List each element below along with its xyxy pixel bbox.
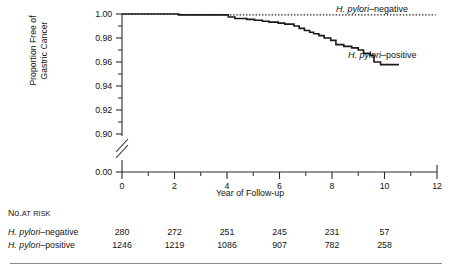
bottom-divider [10,263,442,264]
axis-lines [122,14,437,172]
curve-label-hp-negative: H. pylori–negative [336,4,408,14]
curve-label-hp-negative-species: H. pylori [336,4,369,14]
risk-table-title-main: No. [8,208,22,218]
risk-cell-neg-y10: 57 [365,227,405,237]
y-tick-label-0-96: 0.96 [84,57,112,67]
kaplan-meier-figure: Proportion Free of Gastric Cancer 1.00 0… [0,0,452,278]
risk-cell-neg-y2: 272 [155,227,195,237]
curve-label-hp-positive-species: H. pylori [348,50,381,60]
risk-cell-pos-y8: 782 [312,240,352,250]
risk-cell-neg-y6: 245 [260,227,300,237]
curve-label-hp-positive-suffix: –positive [381,50,417,60]
risk-cell-neg-y0: 280 [102,227,142,237]
x-major-ticks [122,172,437,179]
y-tick-label-0-90: 0.90 [84,129,112,139]
risk-row-hp-positive-label: H. pylori–positive [8,240,75,250]
risk-cell-pos-y2: 1219 [155,240,195,250]
x-axis-title: Year of Follow-up [180,188,320,198]
y-axis-title-line2: Gastric Cancer [38,0,49,127]
y-minor-ticks [118,26,122,122]
x-tick-label-8: 8 [322,181,342,191]
y-axis-title: Proportion Free of Gastric Cancer [28,0,49,127]
y-tick-label-0-92: 0.92 [84,105,112,115]
x-tick-label-12: 12 [427,181,447,191]
y-tick-label-0-98: 0.98 [84,33,112,43]
risk-table-title: No.AT RISK [8,208,51,218]
y-axis-title-line1: Proportion Free of [28,15,38,85]
risk-cell-neg-y8: 231 [312,227,352,237]
y-tick-label-0-00: 0.00 [84,167,112,177]
x-tick-label-0: 0 [112,181,132,191]
risk-row-hp-negative-label: H. pylori–negative [8,227,78,237]
risk-cell-pos-y6: 907 [260,240,300,250]
x-tick-label-10: 10 [375,181,395,191]
risk-cell-pos-y10: 258 [365,240,405,250]
curve-label-hp-negative-suffix: –negative [369,4,408,14]
curve-label-hp-positive: H. pylori–positive [348,50,417,60]
risk-row-hp-negative-suffix: –negative [40,227,78,237]
risk-row-hp-positive-suffix: –positive [40,240,75,250]
risk-row-hp-positive-species: H. pylori [8,240,40,250]
y-tick-label-1-00: 1.00 [84,9,112,19]
risk-table-title-risk: RISK [33,209,50,218]
risk-table-title-at: AT [22,209,31,218]
risk-cell-neg-y4: 251 [207,227,247,237]
y-tick-label-0-94: 0.94 [84,81,112,91]
risk-cell-pos-y0: 1246 [102,240,142,250]
risk-row-hp-negative-species: H. pylori [8,227,40,237]
risk-cell-pos-y4: 1086 [207,240,247,250]
y-axis-break-icon [116,139,128,158]
